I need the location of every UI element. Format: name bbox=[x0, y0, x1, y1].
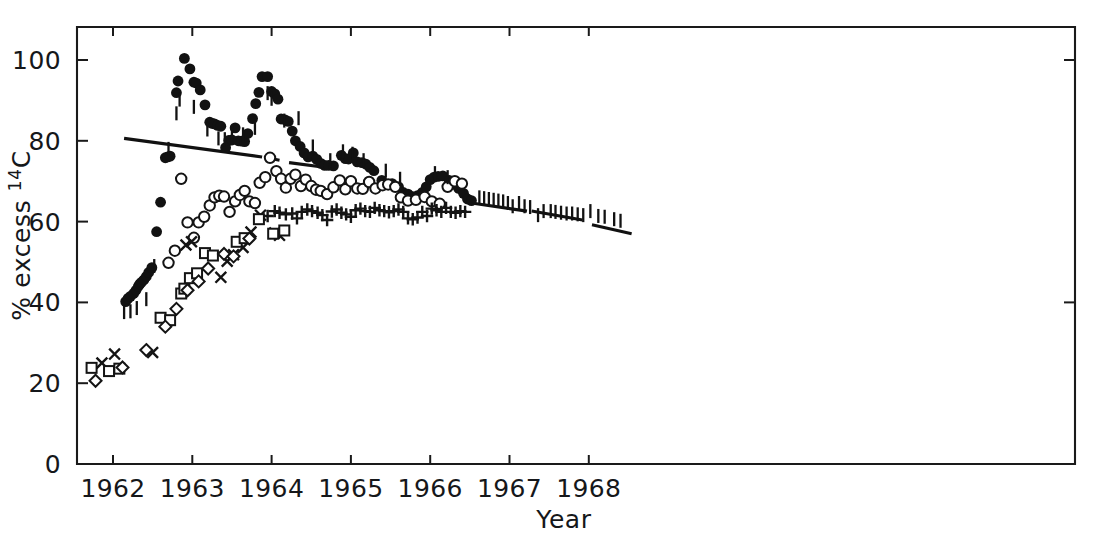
x-tick-label-1968: 1968 bbox=[556, 474, 621, 503]
data-point-filled-circle bbox=[195, 84, 206, 95]
data-point-open-circle bbox=[290, 170, 300, 180]
data-point-open-circle bbox=[219, 191, 229, 201]
data-point-cross bbox=[109, 349, 120, 360]
data-point-diamond bbox=[202, 262, 214, 274]
scatter-plot-svg: 1962196319641965196619671968020406080100… bbox=[0, 0, 1095, 539]
lower-trend-segment-2 bbox=[532, 211, 583, 220]
data-point-filled-circle bbox=[179, 53, 190, 64]
data-point-open-circle bbox=[250, 198, 260, 208]
data-point-open-circle bbox=[224, 207, 234, 217]
x-axis-title: Year bbox=[535, 505, 591, 534]
y-tick-label-0: 0 bbox=[45, 450, 61, 479]
data-point-filled-circle bbox=[368, 165, 379, 176]
lower-trend-segment-3 bbox=[592, 225, 632, 234]
data-point-filled-circle bbox=[466, 195, 477, 206]
data-point-filled-circle bbox=[262, 71, 273, 82]
data-point-open-circle bbox=[170, 245, 180, 255]
data-point-open-circle bbox=[176, 174, 186, 184]
data-point-open-circle bbox=[457, 178, 467, 188]
data-point-square bbox=[87, 363, 97, 373]
axes-group bbox=[77, 27, 1075, 464]
data-point-square bbox=[279, 225, 289, 235]
axis-labels-group: 1962196319641965196619671968020406080100… bbox=[5, 46, 621, 534]
data-point-filled-circle bbox=[250, 98, 261, 109]
x-tick-label-1963: 1963 bbox=[160, 474, 225, 503]
data-point-square bbox=[208, 251, 218, 261]
data-point-group bbox=[87, 53, 621, 387]
y-tick-label-20: 20 bbox=[28, 369, 61, 398]
data-point-open-circle bbox=[199, 212, 209, 222]
x-tick-label-1962: 1962 bbox=[80, 474, 145, 503]
y-axis-title: % excess 14C bbox=[5, 150, 36, 320]
data-point-square bbox=[268, 229, 278, 239]
data-point-open-circle bbox=[163, 258, 173, 268]
x-tick-label-1966: 1966 bbox=[398, 474, 463, 503]
x-tick-label-1965: 1965 bbox=[318, 474, 383, 503]
data-point-filled-circle bbox=[254, 87, 265, 98]
data-point-filled-circle bbox=[185, 63, 196, 74]
data-point-filled-circle bbox=[173, 76, 184, 87]
data-point-filled-circle bbox=[273, 94, 284, 105]
x-tick-label-1964: 1964 bbox=[239, 474, 304, 503]
data-point-filled-circle bbox=[215, 121, 226, 132]
data-point-cross bbox=[215, 272, 226, 283]
data-point-filled-circle bbox=[287, 126, 298, 137]
data-point-square bbox=[104, 366, 114, 376]
data-point-filled-circle bbox=[146, 262, 157, 273]
data-point-square bbox=[254, 214, 264, 224]
data-point-filled-circle bbox=[200, 99, 211, 110]
data-point-diamond bbox=[90, 375, 102, 387]
data-point-open-circle bbox=[239, 186, 249, 196]
data-point-open-circle bbox=[265, 153, 275, 163]
plot-frame bbox=[77, 27, 1075, 464]
data-point-filled-circle bbox=[165, 151, 176, 162]
data-point-filled-circle bbox=[151, 226, 162, 237]
figure-container: 1962196319641965196619671968020406080100… bbox=[0, 0, 1095, 539]
y-tick-label-100: 100 bbox=[12, 46, 61, 75]
data-point-diamond bbox=[170, 303, 182, 315]
data-point-open-circle bbox=[182, 217, 192, 227]
data-point-filled-circle bbox=[247, 113, 258, 124]
x-tick-label-1967: 1967 bbox=[477, 474, 542, 503]
data-point-filled-circle bbox=[155, 197, 166, 208]
data-point-open-circle bbox=[260, 172, 270, 182]
